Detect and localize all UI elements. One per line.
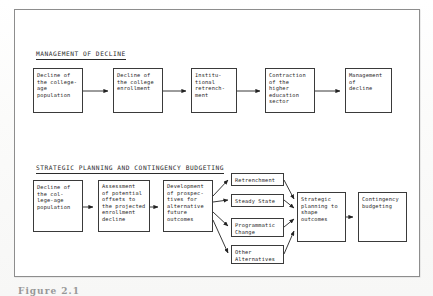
process-box-decline-college-enrollment: Decline of the college enrollment <box>113 68 163 113</box>
process-box-steady-state: Steady State <box>231 194 284 207</box>
process-box-programmatic-change: Programmatic Change <box>231 218 284 237</box>
process-box-contingency-budgeting: Contingency budgeting <box>358 192 407 242</box>
process-box-retrenchment: Retrenchment <box>231 173 284 186</box>
process-box-management-of-decline: Management of decline <box>345 68 392 113</box>
process-box-institutional-retrenchment: Institu- tional retrench- ment <box>191 68 237 113</box>
process-box-assessment-of-potential-offsets: Assessment of potential offsets to the p… <box>98 180 150 232</box>
section-heading-management-of-decline: MANAGEMENT OF DECLINE <box>36 50 126 60</box>
process-box-strategic-planning-shape-outcomes: Strategic planning to shape outcomes <box>297 192 346 242</box>
figure-caption: Figure 2.1 <box>18 286 80 296</box>
process-box-development-of-prospectives: Development of prospec- tives for altern… <box>163 180 213 232</box>
section-heading-strategic-planning-and-contingency-budgeting: STRATEGIC PLANNING AND CONTINGENCY BUDGE… <box>36 164 224 174</box>
process-box-contraction-higher-education-sector: Contraction of the higher education sect… <box>265 68 315 113</box>
process-box-decline-college-age-population: Decline of the college- age population <box>33 68 83 113</box>
process-box-other-alternatives: Other Alternatives <box>231 245 284 264</box>
process-box-decline-college-age-population-2: Decline of the col- lege-age population <box>33 180 83 232</box>
